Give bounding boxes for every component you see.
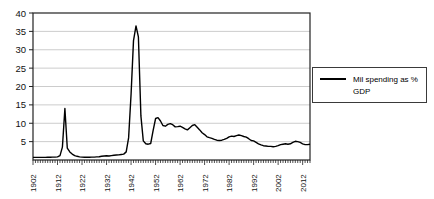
y-axis-label: 5 (21, 136, 26, 147)
y-axis-label: 15 (15, 99, 26, 110)
y-axis-label: 30 (15, 44, 26, 55)
x-axis-label: 1922 (78, 174, 87, 192)
x-axis-label: 1982 (225, 174, 234, 192)
x-axis-label: 1932 (103, 174, 112, 192)
legend: Mil spending as % GDP (312, 67, 427, 103)
x-axis-label: 1912 (54, 174, 63, 192)
x-axis-label: 1972 (201, 174, 210, 192)
y-axis-label: 10 (15, 118, 26, 129)
legend-label: Mil spending as % GDP (353, 74, 418, 97)
series-line (33, 26, 310, 158)
x-axis-label: 2002 (274, 174, 283, 192)
x-axis-label: 1902 (29, 174, 38, 192)
x-axis-label: 2012 (299, 174, 308, 192)
chart-figure: 4035302520151051902191219221932194219521… (0, 0, 434, 199)
x-axis-label: 1962 (176, 174, 185, 192)
y-axis-label: 40 (15, 8, 26, 19)
x-axis-label: 1942 (127, 174, 136, 192)
y-axis-label: 25 (15, 63, 26, 74)
y-axis-label: 20 (15, 81, 26, 92)
legend-line-sample (320, 78, 346, 80)
x-axis-label: 1952 (152, 174, 161, 192)
y-axis-label: 35 (15, 26, 26, 37)
x-axis-label: 1992 (250, 174, 259, 192)
